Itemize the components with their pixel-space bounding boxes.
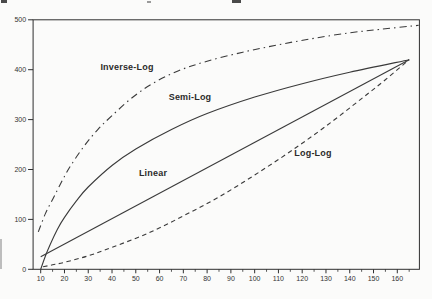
x-tick-label: 80 (203, 275, 211, 282)
curve-linear (41, 60, 410, 257)
y-tick-label: 400 (14, 66, 26, 73)
x-tick-label: 100 (249, 275, 261, 282)
x-tick-label: 110 (273, 275, 284, 282)
plot-region: 1020304050607080901001101201301401501600… (0, 0, 432, 299)
x-tick-label: 90 (227, 275, 235, 282)
x-tick-label: 60 (156, 275, 164, 282)
x-tick-label: 130 (320, 275, 332, 282)
y-tick-label: 100 (14, 216, 26, 223)
x-tick-label: 160 (391, 275, 403, 282)
y-tick-label: 0 (22, 266, 26, 273)
curve-log-log (43, 60, 409, 267)
scan-smudge-artifact (0, 239, 2, 269)
x-tick-label: 40 (108, 275, 116, 282)
curve-label-inverse-log: Inverse-Log (100, 62, 153, 72)
cropped-text-artifact (232, 0, 241, 3)
cropped-text-artifact (147, 1, 151, 3)
x-tick-label: 50 (132, 275, 140, 282)
chart-figure: 1020304050607080901001101201301401501600… (0, 0, 432, 299)
x-tick-label: 150 (368, 275, 380, 282)
x-tick-label: 10 (37, 275, 45, 282)
line-chart: 1020304050607080901001101201301401501600… (0, 0, 432, 299)
x-tick-label: 30 (84, 275, 92, 282)
curve-inverse-log (38, 25, 418, 232)
x-tick-label: 120 (296, 275, 308, 282)
x-tick-label: 70 (179, 275, 187, 282)
y-tick-label: 500 (14, 16, 26, 23)
curve-label-semi-log: Semi-Log (169, 92, 212, 102)
curve-label-log-log: Log-Log (294, 148, 331, 158)
plot-frame (33, 20, 419, 269)
x-tick-label: 140 (344, 275, 356, 282)
x-tick-label: 20 (61, 275, 69, 282)
y-tick-label: 300 (14, 116, 26, 123)
y-tick-label: 200 (14, 166, 26, 173)
curve-label-linear: Linear (139, 168, 167, 178)
curve-semi-log (41, 60, 410, 270)
cropped-text-artifact (1, 0, 7, 3)
